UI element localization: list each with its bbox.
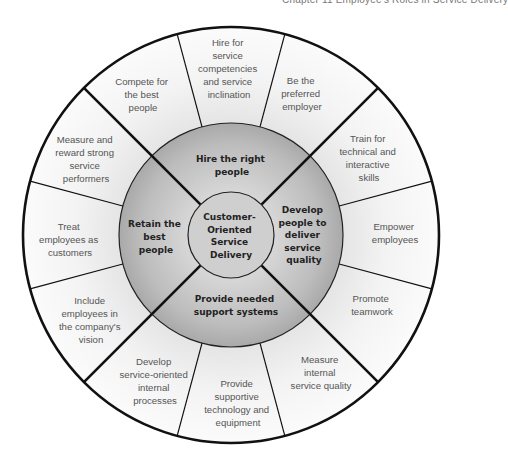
core-circle	[188, 192, 274, 278]
tactic-preferred-employer: Be the preferred employer	[281, 75, 323, 112]
